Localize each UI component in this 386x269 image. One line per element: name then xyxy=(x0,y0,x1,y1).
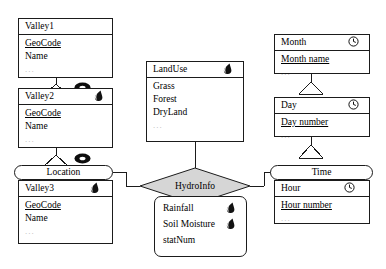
entity-valley1[interactable]: Valley1 GeoCode Name ... xyxy=(18,18,113,78)
entity-month[interactable]: Month Month name ... xyxy=(274,34,370,74)
oval-icon xyxy=(74,150,91,161)
entity-landuse[interactable]: LandUse Grass Forest DryLand ... xyxy=(146,61,244,142)
entity-day-attributes: Day number ... xyxy=(275,114,369,144)
clock-icon xyxy=(348,99,359,110)
attribute-soil-moisture-label: Soil Moisture xyxy=(163,219,215,229)
entity-valley3-attributes: GeoCode Name ... xyxy=(19,197,112,240)
entity-month-attributes: Month name ... xyxy=(275,51,369,81)
entity-valley1-header: Valley1 xyxy=(19,19,112,35)
entity-valley1-attributes: GeoCode Name ... xyxy=(19,35,112,78)
relationship-attributes-box[interactable]: Rainfall Soil Moisture statNum xyxy=(154,196,247,257)
entity-hour[interactable]: Hour Hour number ... xyxy=(274,180,370,224)
entity-valley3-name: Valley3 xyxy=(25,183,54,193)
relationship-hydroinfo-label: HydroInfo xyxy=(139,180,251,192)
attribute-ellipsis: ... xyxy=(153,119,237,132)
entity-time-tab[interactable]: Time xyxy=(270,165,373,180)
attribute-geocode: GeoCode xyxy=(25,37,106,50)
attribute-ellipsis: ... xyxy=(25,225,106,238)
top-edge-artifact xyxy=(60,0,360,6)
entity-month-header: Month xyxy=(275,35,369,51)
attribute-soil-moisture: Soil Moisture xyxy=(163,216,238,232)
attribute-name: Name xyxy=(25,50,106,63)
er-diagram-canvas: Valley1 GeoCode Name ... Valley2 GeoCode xyxy=(0,0,386,269)
entity-valley2-name: Valley2 xyxy=(25,91,54,101)
attribute-ellipsis: ... xyxy=(281,66,363,79)
entity-time-label: Time xyxy=(312,167,332,177)
entity-valley2-header: Valley2 xyxy=(19,89,112,105)
attribute-dryland: DryLand xyxy=(153,106,237,119)
entity-landuse-attributes: Grass Forest DryLand ... xyxy=(147,78,243,134)
entity-hour-header: Hour xyxy=(275,181,369,197)
attribute-geocode: GeoCode xyxy=(25,199,106,212)
attribute-day-number: Day number xyxy=(281,116,363,129)
entity-location-label: Location xyxy=(47,167,81,177)
entity-landuse-name: LandUse xyxy=(153,64,187,74)
attribute-ellipsis: ... xyxy=(25,63,106,76)
entity-hour-name: Hour xyxy=(281,183,301,193)
entity-location-tab[interactable]: Location xyxy=(14,165,113,180)
attribute-ellipsis: ... xyxy=(281,129,363,142)
entity-valley2[interactable]: Valley2 GeoCode Name ... xyxy=(18,88,113,148)
attribute-hour-number: Hour number xyxy=(281,199,363,212)
entity-day-name: Day xyxy=(281,100,297,110)
leaf-icon xyxy=(93,90,104,102)
attribute-ellipsis: ... xyxy=(281,212,363,225)
entity-valley3[interactable]: Valley3 GeoCode Name ... xyxy=(18,180,113,244)
attribute-statnum: statNum xyxy=(163,232,238,248)
leaf-icon xyxy=(225,202,236,214)
leaf-icon xyxy=(225,218,236,230)
entity-day[interactable]: Day Day number ... xyxy=(274,97,370,137)
attribute-ellipsis: ... xyxy=(25,133,106,146)
attribute-geocode: GeoCode xyxy=(25,107,106,120)
attribute-grass: Grass xyxy=(153,80,237,93)
attribute-rainfall-label: Rainfall xyxy=(163,203,194,213)
entity-landuse-header: LandUse xyxy=(147,62,243,78)
attribute-name: Name xyxy=(25,212,106,225)
entity-day-header: Day xyxy=(275,98,369,114)
clock-icon xyxy=(348,36,359,47)
entity-valley1-name: Valley1 xyxy=(25,21,54,31)
leaf-icon xyxy=(222,63,233,75)
attribute-month-name: Month name xyxy=(281,53,363,66)
entity-valley3-header: Valley3 xyxy=(19,181,112,197)
entity-hour-attributes: Hour number ... xyxy=(275,197,369,227)
entity-month-name: Month xyxy=(281,37,306,47)
entity-valley2-attributes: GeoCode Name ... xyxy=(19,105,112,148)
leaf-icon xyxy=(89,182,100,194)
attribute-forest: Forest xyxy=(153,93,237,106)
clock-icon xyxy=(344,182,355,193)
attribute-rainfall: Rainfall xyxy=(163,200,238,216)
attribute-name: Name xyxy=(25,120,106,133)
